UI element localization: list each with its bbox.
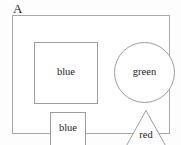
shape-label-square-small: blue — [50, 122, 86, 134]
shape-label-circle-green: green — [114, 66, 175, 78]
panel-label-a: A — [13, 2, 23, 16]
shape-label-triangle-red: red — [125, 129, 167, 141]
diagram-canvas: A blue green blue red — [0, 0, 181, 145]
shape-label-square-large: blue — [34, 66, 98, 78]
outer-frame: blue green blue red — [12, 15, 170, 134]
